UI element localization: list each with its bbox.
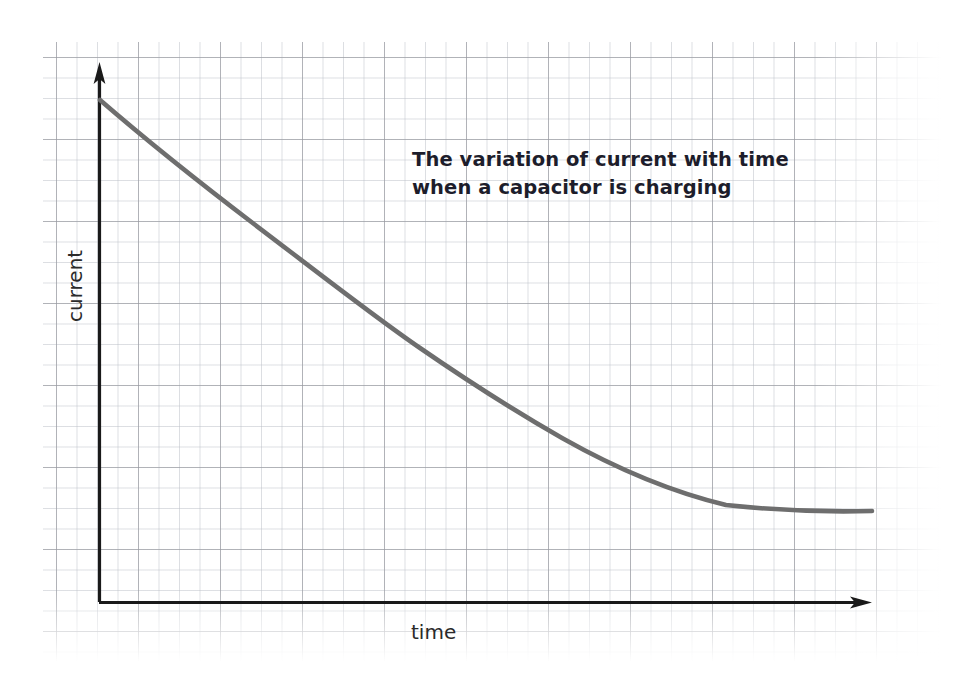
x-axis-label: time: [411, 620, 456, 644]
y-axis-label: current: [63, 296, 87, 322]
plot-area: [0, 0, 976, 699]
chart-title: The variation of current with time when …: [412, 146, 789, 202]
figure-canvas: The variation of current with time when …: [0, 0, 976, 699]
current-axis: [94, 62, 106, 602]
time-axis: [99, 596, 872, 608]
